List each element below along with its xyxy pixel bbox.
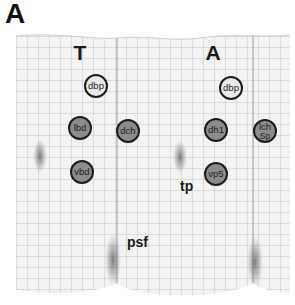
column-label-a: A	[205, 42, 220, 63]
smudge-spot	[33, 139, 47, 173]
annotation-tp: tp	[180, 179, 193, 193]
spot-label: lbd	[74, 123, 87, 133]
annotation-psf: psf	[127, 235, 148, 249]
grid-paper	[0, 0, 295, 305]
column-label-t: T	[74, 42, 87, 63]
spot-label: dbp	[223, 83, 239, 93]
chromatography-plate	[0, 0, 295, 305]
spot-label: vbd	[74, 167, 89, 177]
spot-vp5: vp5	[204, 162, 228, 186]
spot-label: dbp	[88, 81, 104, 91]
spot-dbp-a: dbp	[219, 76, 243, 100]
spot-label: dch	[120, 126, 135, 136]
spot-dh1: dh1	[204, 118, 228, 142]
smudge-spot	[173, 140, 187, 174]
spot-dch: dch	[116, 119, 140, 143]
spot-dbp-t: dbp	[84, 74, 108, 98]
spot-lbd: lbd	[68, 116, 92, 140]
smudge-spot	[105, 234, 121, 286]
smudge-spot	[247, 236, 263, 288]
spot-sublabel: Sp	[260, 132, 270, 141]
spot-label: vp5	[208, 169, 223, 179]
spot-vbd: vbd	[70, 160, 94, 184]
spot-label: dh1	[208, 125, 224, 135]
spot-lch-sp: lch Sp	[253, 119, 277, 143]
